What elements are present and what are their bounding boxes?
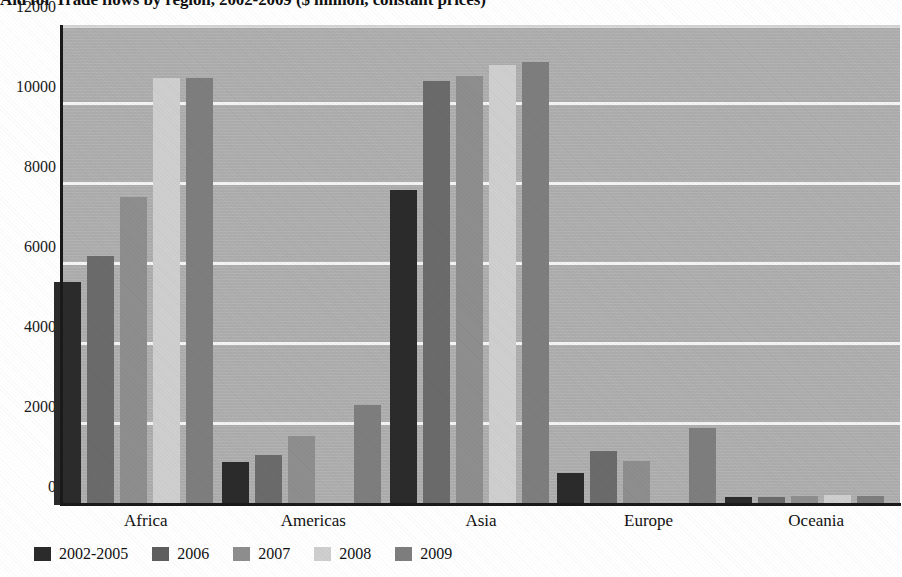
y-tick-label-8000: 8000 (0, 158, 56, 176)
legend-swatch-icon (314, 547, 331, 561)
legend-item-2006[interactable]: 2006 (152, 545, 209, 563)
category-label-oceania: Oceania (732, 511, 900, 531)
legend-label: 2006 (177, 545, 209, 563)
legend-label: 2002-2005 (59, 545, 128, 563)
x-axis-line (60, 503, 901, 506)
chart-page: Aid for Trade flows by region, 2002-2009… (0, 0, 902, 577)
legend-item-2007[interactable]: 2007 (233, 545, 290, 563)
bar-asia-2009 (522, 62, 549, 505)
bar-europe-2006 (590, 451, 617, 505)
bar-africa-2006 (87, 256, 114, 505)
y-axis-tick-labels: 020004000600080001000012000 (0, 25, 56, 505)
legend-swatch-icon (395, 547, 412, 561)
category-label-africa: Africa (62, 511, 230, 531)
bar-americas-2006 (255, 455, 282, 505)
legend-swatch-icon (152, 547, 169, 561)
chart-legend: 2002-20052006200720082009 (34, 543, 476, 565)
y-tick-label-6000: 6000 (0, 238, 56, 256)
legend-swatch-icon (233, 547, 250, 561)
bar-americas-2002-2005 (222, 462, 249, 505)
y-tick-label-12000: 12000 (0, 0, 56, 16)
chart-title: Aid for Trade flows by region, 2002-2009… (0, 0, 902, 10)
bar-africa-2008 (153, 78, 180, 505)
bar-africa-2002-2005 (54, 282, 81, 505)
legend-item-2008[interactable]: 2008 (314, 545, 371, 563)
bar-asia-2008 (489, 65, 516, 505)
legend-label: 2007 (258, 545, 290, 563)
plot-area (62, 25, 900, 505)
category-label-asia: Asia (397, 511, 565, 531)
legend-label: 2009 (420, 545, 452, 563)
bar-asia-2006 (423, 81, 450, 505)
y-tick-label-2000: 2000 (0, 398, 56, 416)
bar-europe-2007 (623, 461, 650, 505)
y-tick-label-10000: 10000 (0, 78, 56, 96)
y-axis-line (60, 25, 63, 506)
legend-label: 2008 (339, 545, 371, 563)
y-tick-label-0: 0 (0, 478, 56, 496)
bar-asia-2002-2005 (390, 190, 417, 505)
bar-asia-2007 (456, 76, 483, 505)
legend-item-2002-2005[interactable]: 2002-2005 (34, 545, 128, 563)
bar-europe-2009 (689, 428, 716, 505)
category-label-americas: Americas (230, 511, 398, 531)
bar-europe-2002-2005 (557, 473, 584, 505)
bar-africa-2009 (186, 78, 213, 505)
legend-item-2009[interactable]: 2009 (395, 545, 452, 563)
category-label-europe: Europe (565, 511, 733, 531)
legend-swatch-icon (34, 547, 51, 561)
bar-africa-2007 (120, 197, 147, 505)
y-tick-label-4000: 4000 (0, 318, 56, 336)
bar-americas-2007 (288, 436, 315, 505)
bar-americas-2009 (354, 405, 381, 505)
